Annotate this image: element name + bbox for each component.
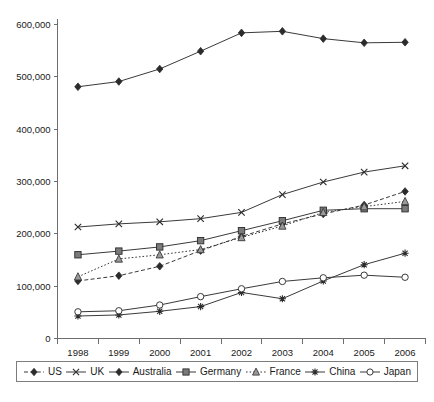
legend-marker-circle-open-icon: [359, 366, 381, 378]
y-tick-label: 200,000: [16, 228, 50, 239]
legend-marker-triangle-up-icon: [245, 366, 267, 378]
legend-label: UK: [90, 366, 104, 377]
x-tick-label: 2003: [272, 347, 293, 358]
chart-plot-area: 0100,000200,000300,000400,000500,000600,…: [0, 0, 434, 402]
legend-marker-diamond-filled-icon: [23, 366, 45, 378]
x-tick-label: 2002: [231, 347, 252, 358]
x-tick-label: 2000: [149, 347, 170, 358]
chart-legend: USUKAustraliaGermanyFranceChinaJapan: [16, 361, 418, 382]
legend-item-france[interactable]: France: [245, 366, 301, 378]
x-tick-label: 2001: [190, 347, 211, 358]
legend-item-china[interactable]: China: [304, 366, 355, 378]
legend-label: Germany: [200, 366, 241, 377]
legend-marker-x-cross-icon: [65, 366, 87, 378]
legend-label: Japan: [384, 366, 411, 377]
y-tick-label: 500,000: [16, 71, 50, 82]
legend-item-germany[interactable]: Germany: [175, 366, 241, 378]
y-tick-label: 300,000: [16, 176, 50, 187]
y-tick-label: 600,000: [16, 19, 50, 30]
x-tick-label: 2006: [394, 347, 415, 358]
x-tick-label: 2004: [313, 347, 334, 358]
legend-item-us[interactable]: US: [23, 366, 62, 378]
legend-item-japan[interactable]: Japan: [359, 366, 411, 378]
legend-label: Australia: [133, 366, 172, 377]
y-tick-label: 0: [45, 333, 50, 344]
legend-label: France: [270, 366, 301, 377]
line-chart-figure: 0100,000200,000300,000400,000500,000600,…: [0, 0, 434, 402]
x-tick-label: 2005: [354, 347, 375, 358]
chart-series-france: [74, 197, 408, 280]
chart-series-germany: [75, 206, 409, 258]
legend-label: China: [329, 366, 355, 377]
y-tick-label: 400,000: [16, 124, 50, 135]
x-tick-label: 1998: [67, 347, 88, 358]
x-tick-label: 1999: [108, 347, 129, 358]
y-tick-label: 100,000: [16, 281, 50, 292]
chart-series-china: [74, 250, 408, 320]
chart-series-uk: [75, 163, 409, 231]
legend-marker-square-filled-icon: [175, 366, 197, 378]
legend-item-uk[interactable]: UK: [65, 366, 104, 378]
legend-item-australia[interactable]: Australia: [108, 366, 172, 378]
legend-label: US: [48, 366, 62, 377]
chart-series-australia: [75, 28, 409, 91]
legend-marker-diamond-filled-icon: [108, 366, 130, 378]
figure-caption: [0, 390, 434, 402]
legend-marker-asterisk-icon: [304, 366, 326, 378]
